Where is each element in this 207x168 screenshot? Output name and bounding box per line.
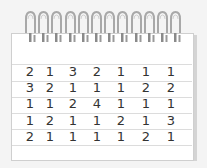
grid-row: 2111121 xyxy=(0,129,207,145)
spiral-binding xyxy=(24,11,186,45)
grid-cell: 1 xyxy=(40,64,60,80)
grid-cell: 1 xyxy=(40,96,60,112)
grid-cell: 1 xyxy=(87,113,107,129)
spiral-ring-icon xyxy=(116,11,129,43)
grid-cell: 2 xyxy=(87,64,107,80)
grid-cell: 1 xyxy=(111,64,131,80)
grid-cell: 3 xyxy=(161,113,181,129)
grid-cell: 2 xyxy=(136,129,156,145)
spiral-ring-icon xyxy=(64,11,77,43)
grid-cell: 1 xyxy=(111,96,131,112)
spiral-ring-icon xyxy=(169,11,182,43)
grid-row: 3211122 xyxy=(0,80,207,96)
grid-cell: 1 xyxy=(87,80,107,96)
grid-cell: 1 xyxy=(63,113,83,129)
spiral-ring-icon xyxy=(37,11,50,43)
ruled-line xyxy=(12,145,192,146)
grid-cell: 1 xyxy=(111,80,131,96)
grid-cell: 2 xyxy=(20,64,40,80)
grid-cell: 1 xyxy=(63,129,83,145)
grid-cell: 2 xyxy=(40,113,60,129)
grid-row: 2132111 xyxy=(0,64,207,80)
grid-cell: 4 xyxy=(87,96,107,112)
spiral-ring-icon xyxy=(143,11,156,43)
grid-row: 1211213 xyxy=(0,113,207,129)
grid-cell: 1 xyxy=(161,64,181,80)
grid-row: 1124111 xyxy=(0,96,207,112)
grid-cell: 1 xyxy=(20,113,40,129)
grid-cell: 2 xyxy=(20,129,40,145)
grid-cell: 3 xyxy=(20,80,40,96)
spiral-ring-icon xyxy=(90,11,103,43)
grid-cell: 1 xyxy=(40,129,60,145)
spiral-ring-icon xyxy=(77,11,90,43)
grid-cell: 1 xyxy=(63,80,83,96)
grid-cell: 1 xyxy=(161,96,181,112)
spiral-ring-icon xyxy=(24,11,37,43)
grid-cell: 2 xyxy=(111,113,131,129)
grid-cell: 2 xyxy=(136,80,156,96)
grid-cell: 2 xyxy=(63,96,83,112)
spiral-ring-icon xyxy=(103,11,116,43)
spiral-ring-icon xyxy=(156,11,169,43)
grid-cell: 2 xyxy=(40,80,60,96)
grid-cell: 1 xyxy=(136,113,156,129)
grid-cell: 2 xyxy=(161,80,181,96)
grid-cell: 1 xyxy=(111,129,131,145)
spiral-ring-icon xyxy=(130,11,143,43)
grid-cell: 1 xyxy=(161,129,181,145)
spiral-ring-icon xyxy=(50,11,63,43)
grid-cell: 1 xyxy=(136,64,156,80)
grid-cell: 3 xyxy=(63,64,83,80)
grid-cell: 1 xyxy=(87,129,107,145)
grid-cell: 1 xyxy=(136,96,156,112)
grid-cell: 1 xyxy=(20,96,40,112)
